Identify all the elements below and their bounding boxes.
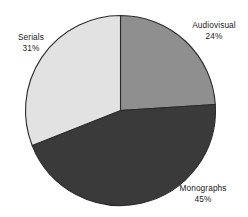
pie-label-serials: Serials 31% — [4, 32, 58, 53]
pie-label-monographs-name: Monographs — [166, 183, 240, 194]
pie-label-monographs-percent: 45% — [166, 194, 240, 205]
pie-label-monographs: Monographs 45% — [166, 183, 240, 204]
pie-label-serials-name: Serials — [4, 32, 58, 43]
pie-label-audiovisual-percent: 24% — [183, 31, 245, 42]
pie-label-serials-percent: 31% — [4, 43, 58, 54]
pie-label-audiovisual-name: Audiovisual — [183, 20, 245, 31]
pie-chart: Audiovisual 24% Serials 31% Monographs 4… — [0, 0, 248, 217]
pie-label-audiovisual: Audiovisual 24% — [183, 20, 245, 41]
